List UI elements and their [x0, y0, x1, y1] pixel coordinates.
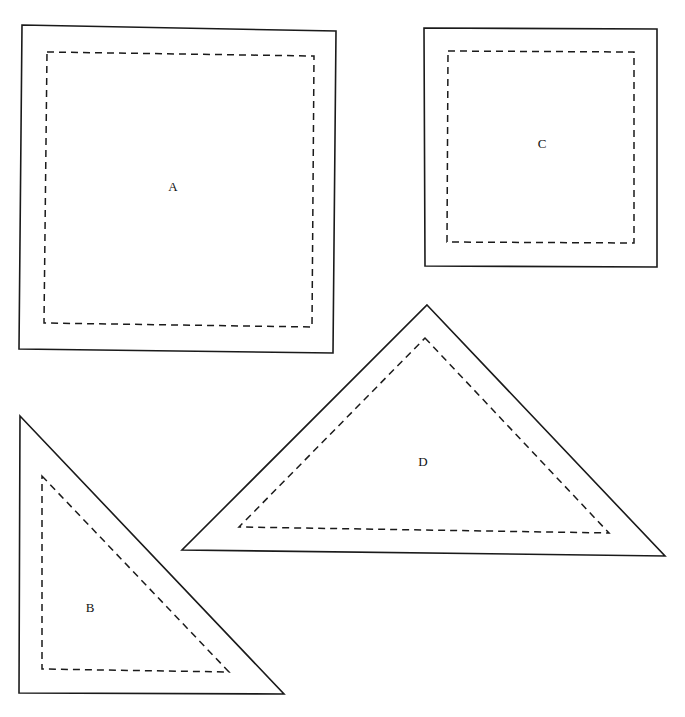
shape-c: C	[424, 28, 657, 267]
shape-a-label: A	[168, 179, 178, 194]
shape-d: D	[182, 305, 665, 556]
shape-c-label: C	[538, 136, 547, 151]
shape-b-label: B	[86, 600, 95, 615]
shape-b-outer-outline	[19, 416, 284, 694]
shape-d-dashed-inner-outline	[239, 338, 609, 533]
shape-a-dashed-inner-outline	[44, 52, 314, 327]
shape-d-outer-outline	[182, 305, 665, 556]
shape-b: B	[19, 416, 284, 694]
shape-d-label: D	[418, 454, 427, 469]
shape-b-dashed-inner-outline	[42, 476, 229, 672]
shapes-diagram: A C B D	[0, 0, 685, 717]
shape-a: A	[19, 25, 336, 353]
